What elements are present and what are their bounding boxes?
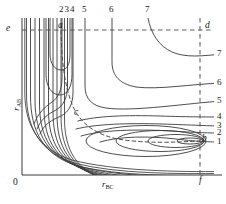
right-level-label-6: 6 [217,78,222,87]
x-axis-title-subscript: BC [106,183,114,190]
contour-level-6 [35,18,222,178]
repulsive-wall-contours [25,18,222,174]
top-level-label-6: 6 [109,5,114,14]
plot-axes-frame [22,18,222,175]
right-level-label-5: 5 [217,96,222,105]
pes-contour-figure: 2 3 4 5 6 7 7 6 5 4 3 2 1 e a d c b f rA… [0,0,226,204]
y-axis-title-subscript: AB [15,99,22,107]
contour-level-7 [31,18,223,176]
y-axis-title: rAB [5,85,23,125]
y-axis-title-symbol: r [11,107,21,111]
point-label-c: c [74,108,78,118]
x-axis-title: rBC [102,180,113,189]
point-label-b: b [202,134,207,144]
origin-label: 0 [13,178,18,188]
top-level-label-7: 7 [145,5,150,14]
x-axis-title-symbol: r [102,179,106,189]
top-level-label-3: 3 [65,5,70,14]
point-label-a: a [58,21,63,31]
right-level-label-7: 7 [217,49,222,58]
contour-level-5 [40,18,223,180]
contour-level-2 [34,18,222,185]
point-label-d: d [205,21,210,31]
top-level-label-2: 2 [59,5,64,14]
contour-plot-canvas [0,0,226,204]
point-label-e: e [6,24,10,34]
reference-dashed-lines [22,18,222,178]
contour-level-1 [57,18,222,187]
top-level-label-4: 4 [70,5,75,14]
top-level-label-5: 5 [82,5,87,14]
point-label-f: f [199,176,202,186]
right-level-label-1: 1 [217,137,222,146]
